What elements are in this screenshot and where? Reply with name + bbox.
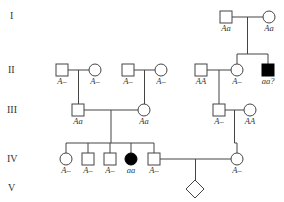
genotype-label: A–: [213, 116, 224, 126]
genotype-label: A–: [56, 76, 67, 86]
generation-label-V: V: [8, 182, 16, 193]
genotype-label: A–: [231, 76, 242, 86]
genotype-label: AA: [244, 116, 256, 126]
pedigree-diagram: I II III IV V AaAaA–A–A–A–AAA–aa?AaAaA–A…: [0, 0, 284, 202]
genotype-label: A–: [155, 76, 166, 86]
generation-label-IV: IV: [7, 153, 18, 164]
male-square: [56, 64, 68, 76]
male-square: [72, 104, 84, 116]
generation-label-II: II: [8, 64, 15, 75]
genotype-label: A–: [104, 165, 115, 175]
male-square: [104, 153, 116, 165]
genotype-label: AA: [195, 76, 207, 86]
female-circle: [231, 153, 243, 165]
genotype-label: Aa: [220, 23, 230, 33]
generation-label-III: III: [7, 104, 17, 115]
genotype-label: Aa: [138, 116, 148, 126]
female-circle: [89, 64, 101, 76]
male-square: [122, 64, 134, 76]
male-square: [213, 104, 225, 116]
female-circle: [244, 104, 256, 116]
genotype-label: Aa: [263, 23, 273, 33]
genotype-label: A–: [148, 165, 159, 175]
male-square: [82, 153, 94, 165]
genotype-label: A–: [122, 76, 133, 86]
male-square: [148, 153, 160, 165]
female-circle: [263, 11, 275, 23]
female-circle: [138, 104, 150, 116]
genotype-label: A–: [89, 76, 100, 86]
genotype-label: A–: [60, 165, 71, 175]
male-square: [220, 11, 232, 23]
genotype-label: Aa: [72, 116, 82, 126]
affected-female-circle: [125, 153, 137, 165]
generation-label-I: I: [10, 10, 13, 21]
genotype-label: A–: [82, 165, 93, 175]
male-square: [195, 64, 207, 76]
female-circle: [155, 64, 167, 76]
female-circle: [60, 153, 72, 165]
genotype-label: aa?: [262, 76, 276, 86]
genotype-label: A–: [231, 165, 242, 175]
pedigree-individuals: AaAaA–A–A–A–AAA–aa?AaAaA–AAA–A–A–aaA–A–: [56, 11, 275, 198]
genotype-label: aa: [127, 165, 136, 175]
unknown-sex-diamond: [186, 180, 204, 198]
affected-male-square: [262, 64, 274, 76]
female-circle: [231, 64, 243, 76]
